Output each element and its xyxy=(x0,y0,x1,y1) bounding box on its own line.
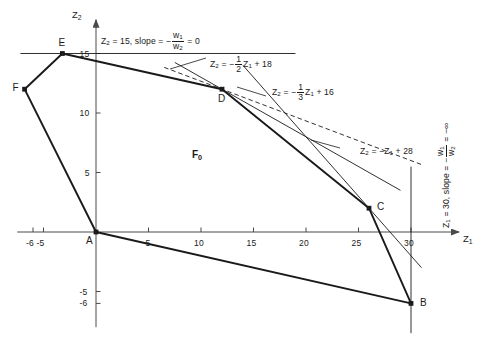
annotation-third-slope-line: Z2 = −13Z1 + 16 xyxy=(272,83,334,102)
vertex-markers xyxy=(22,51,413,306)
plot-svg xyxy=(0,0,490,358)
x-tick-label: -5 xyxy=(37,239,45,248)
vertex-marker-D xyxy=(220,87,225,92)
x-tick-label: 15 xyxy=(247,239,257,248)
x-tick-label: 10 xyxy=(194,239,204,248)
vertex-marker-F xyxy=(22,87,27,92)
annotation-leader xyxy=(170,58,206,69)
vertex-label-f: F xyxy=(13,83,19,93)
supporting-line xyxy=(175,62,401,190)
x-tick-label: 30 xyxy=(404,239,414,248)
vertex-marker-C xyxy=(367,206,372,211)
y-tick-label: -6 xyxy=(80,299,88,308)
vertex-label-b: B xyxy=(420,298,427,308)
annotation-z1-equals-30: Z1 = 30, slope = −w1w2 = −∞ xyxy=(436,123,457,228)
figure-canvas: Z2 Z1 F0 Z2 = 15, slope = −w1w2 = 0 Z2 =… xyxy=(0,0,490,358)
annotation-z2-equals-15: Z2 = 15, slope = −w1w2 = 0 xyxy=(101,31,200,52)
y-tick-label: -5 xyxy=(80,288,88,297)
y-tick-label: 10 xyxy=(80,109,90,118)
feasible-region-polygon xyxy=(25,54,411,304)
annotation-leader xyxy=(237,87,266,96)
x-tick-label: 5 xyxy=(146,239,151,248)
feasible-region-outline xyxy=(25,54,411,304)
region-label-f0: F0 xyxy=(192,150,202,161)
vertex-label-a: A xyxy=(86,236,93,246)
annotation-half-slope-line: Z2 = −12Z1 + 18 xyxy=(210,55,272,74)
vertex-label-e: E xyxy=(58,38,65,48)
x-tick-label: 25 xyxy=(352,239,362,248)
vertex-marker-B xyxy=(409,301,414,306)
vertex-label-d: D xyxy=(218,94,225,104)
y-tick-label: 15 xyxy=(80,50,90,59)
vertex-marker-E xyxy=(60,51,65,56)
x-tick-label: 20 xyxy=(299,239,309,248)
x-axis-label: Z1 xyxy=(463,234,473,245)
vertex-marker-A xyxy=(94,230,99,235)
y-tick-label: 5 xyxy=(85,169,90,178)
x-tick-label: -6 xyxy=(26,239,34,248)
y-axis-label: Z2 xyxy=(72,10,82,21)
annotation-unit-slope-line: Z2 = −Z1 + 28 xyxy=(360,147,413,157)
vertex-label-c: C xyxy=(377,202,384,212)
